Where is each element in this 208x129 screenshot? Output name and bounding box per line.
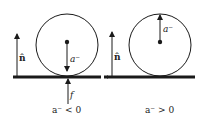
normal-label: n̂ [114,52,121,62]
left-panel: a⁻ n̂ f a⁻ < 0 [13,14,108,115]
acceleration-label: a⁻ [163,24,173,34]
normal-label: n̂ [19,53,26,63]
left-caption: a⁻ < 0 [52,105,81,115]
right-panel: a⁻ n̂ a⁻ > 0 [107,14,195,115]
acceleration-label: a⁻ [70,54,80,64]
right-caption: a⁻ > 0 [145,105,174,115]
diagram-canvas: a⁻ n̂ f a⁻ < 0 a⁻ n̂ a⁻ > 0 [0,0,208,129]
physics-diagram: a⁻ n̂ f a⁻ < 0 a⁻ n̂ a⁻ > 0 [0,0,208,129]
friction-label: f [69,90,75,100]
